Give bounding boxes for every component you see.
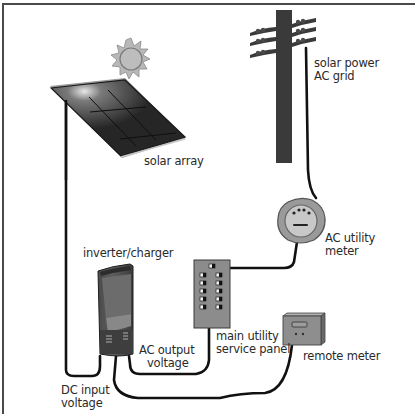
wire-meter-to-panel (230, 242, 297, 268)
label-dc-input-line2: voltage (61, 397, 103, 410)
wire-dc-input (66, 100, 100, 376)
label-inverter: inverter/charger (83, 247, 173, 260)
meter-icon (278, 198, 325, 243)
inverter-icon (98, 264, 133, 356)
sun-icon (111, 38, 150, 79)
label-grid-line2: AC grid (314, 70, 354, 83)
breaker-panel-icon (194, 260, 230, 328)
label-panel-line2: service panel (216, 343, 290, 356)
remote-meter-icon (283, 313, 325, 345)
label-remote-meter: remote meter (303, 350, 380, 363)
label-utility-meter-line2: meter (325, 245, 359, 258)
label-solar-array: solar array (144, 155, 204, 168)
label-ac-output-line2: voltage (147, 357, 189, 370)
